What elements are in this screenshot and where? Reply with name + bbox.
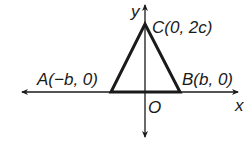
y-axis-label: y <box>130 2 141 21</box>
vertex-c-label: C(0, 2c) <box>152 18 212 37</box>
origin-label: O <box>148 98 161 117</box>
coordinate-diagram: y x O C(0, 2c) A(−b, 0) B(b, 0) <box>0 0 247 143</box>
vertex-b-label: B(b, 0) <box>182 70 233 89</box>
x-axis-label: x <box>234 96 244 115</box>
vertex-a-label: A(−b, 0) <box>36 70 98 89</box>
